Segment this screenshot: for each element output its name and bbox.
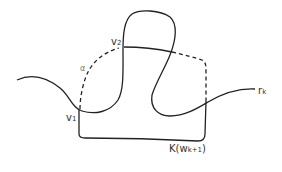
k-box-boundary <box>79 101 206 141</box>
edge-right-dashed <box>172 52 206 101</box>
label-v2: v2 <box>111 37 121 47</box>
edge-v2-solid <box>124 47 172 52</box>
label-alpha: α <box>80 65 85 73</box>
diagram-canvas <box>0 0 282 172</box>
label-r-k: rk <box>258 86 266 96</box>
curve-alpha-dashed <box>80 48 119 109</box>
label-v1: v1 <box>66 113 76 123</box>
curve-r-k <box>17 11 255 116</box>
label-k-w-k1: K(wk+1) <box>169 144 206 154</box>
